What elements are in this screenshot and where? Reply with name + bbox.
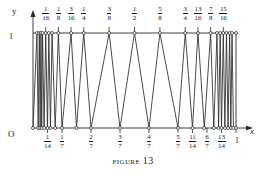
fraction-denominator: 7: [176, 142, 181, 150]
zigzag-curve: [33, 33, 236, 128]
top-tick-label-3: 14: [75, 6, 93, 23]
fraction-denominator: 2: [132, 14, 137, 22]
zigzag-plot: [0, 0, 266, 180]
fraction-denominator: 8: [158, 14, 163, 22]
fraction-denominator: 14: [189, 142, 197, 150]
bottom-tick-label-8: 1314: [213, 134, 231, 151]
figure-caption: Figure 13: [0, 155, 266, 166]
bottom-tick-label-3: 37: [111, 134, 129, 151]
top-tick-label-4: 38: [100, 6, 118, 23]
caption-word: Figure: [112, 155, 140, 166]
fraction-denominator: 4: [183, 14, 188, 22]
bottom-tick-label-1: 17: [53, 134, 71, 151]
bottom-tick-label-4: 47: [140, 134, 158, 151]
figure-13: y 1 O x 1 1161831614381258341316781516 1…: [0, 0, 266, 180]
fraction-denominator: 16: [219, 14, 227, 22]
fraction-denominator: 7: [118, 142, 123, 150]
top-tick-label-5: 12: [126, 6, 144, 23]
fraction-denominator: 16: [42, 14, 49, 22]
fraction-denominator: 4: [81, 14, 86, 22]
vertex-markers: [32, 32, 238, 130]
top-tick-label-6: 58: [151, 6, 169, 23]
fraction-denominator: 7: [147, 142, 152, 150]
fraction-denominator: 14: [44, 142, 51, 150]
fraction-denominator: 8: [208, 14, 213, 22]
fraction-denominator: 16: [68, 14, 75, 22]
bottom-tick-label-2: 27: [82, 134, 100, 151]
caption-number: 13: [143, 155, 154, 166]
fraction-denominator: 8: [56, 14, 61, 22]
fraction-denominator: 7: [60, 142, 65, 150]
fraction-denominator: 8: [107, 14, 112, 22]
fraction-denominator: 14: [218, 142, 226, 150]
top-tick-label-10: 1516: [214, 6, 232, 23]
fraction-denominator: 7: [205, 142, 210, 150]
fraction-denominator: 7: [89, 142, 94, 150]
